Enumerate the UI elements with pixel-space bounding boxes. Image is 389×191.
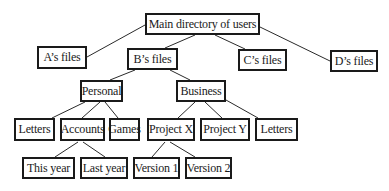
node-personal: Personal: [80, 80, 123, 102]
node-accounts: Accounts: [60, 118, 105, 141]
node-a-files: A’s files: [37, 46, 87, 69]
node-main-directory: Main directory of users: [145, 13, 260, 35]
node-b-files: B’s files: [127, 48, 178, 70]
node-business: Business: [176, 80, 226, 102]
directory-tree-diagram: Main directory of users A’s files B’s fi…: [0, 0, 389, 191]
node-project-x: Project X: [147, 118, 195, 141]
node-d-files: D’s files: [330, 50, 378, 72]
node-version-1: Version 1: [133, 157, 180, 179]
node-letters-business: Letters: [255, 118, 298, 141]
node-games: Games: [109, 118, 140, 141]
node-last-year: Last year: [80, 157, 128, 179]
node-this-year: This year: [22, 157, 75, 179]
node-version-2: Version 2: [185, 157, 232, 179]
node-letters-personal: Letters: [14, 118, 55, 141]
node-c-files: C’s files: [238, 49, 287, 71]
node-project-y: Project Y: [200, 118, 250, 141]
